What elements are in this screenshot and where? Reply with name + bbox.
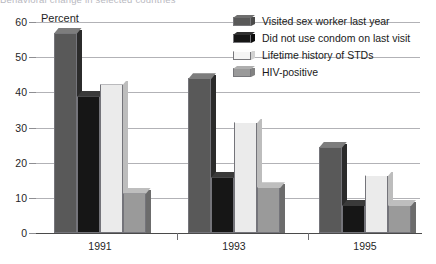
legend-item[interactable]: Visited sex worker last year: [233, 13, 433, 28]
legend-label: Lifetime history of STDs: [262, 49, 373, 61]
bar-front-face: [365, 175, 388, 233]
bar-front-face: [319, 147, 342, 233]
y-tick-mark: [29, 57, 36, 58]
bar-front-face: [211, 177, 234, 233]
bar: [123, 188, 146, 233]
x-axis-line: [30, 233, 422, 234]
legend-swatch-icon: [233, 32, 255, 43]
legend-item[interactable]: HIV-positive: [233, 64, 433, 79]
bar: [234, 117, 257, 233]
legend-item[interactable]: Did not use condom on last visit: [233, 30, 433, 45]
chart-legend: Visited sex worker last yearDid not use …: [233, 13, 433, 81]
bar-side-face: [146, 190, 151, 233]
y-tick-mark: [29, 233, 36, 234]
legend-swatch-icon: [233, 15, 255, 26]
bar: [211, 172, 234, 233]
y-tick-mark: [29, 163, 36, 164]
y-tick-label: 60: [15, 16, 27, 28]
bar-front-face: [123, 193, 146, 233]
bar-front-face: [100, 84, 123, 233]
bar: [257, 182, 280, 233]
bar-chart: Percent 0102030405060 199119931995 Visit…: [0, 0, 436, 264]
bar-front-face: [188, 78, 211, 233]
bar: [100, 79, 123, 233]
bar-front-face: [234, 122, 257, 233]
bar: [342, 200, 365, 233]
y-tick-label: 50: [15, 51, 27, 63]
bar: [77, 91, 100, 233]
bar: [388, 200, 411, 233]
bar-front-face: [257, 187, 280, 233]
y-tick-mark: [29, 92, 36, 93]
x-axis-tick: [177, 233, 178, 240]
bar: [365, 170, 388, 233]
legend-swatch-icon: [233, 66, 255, 77]
y-tick-mark: [29, 128, 36, 129]
y-tick-label: 10: [15, 192, 27, 204]
bar: [188, 73, 211, 233]
bar-side-face: [411, 202, 416, 233]
legend-label: Visited sex worker last year: [262, 15, 390, 27]
legend-label: HIV-positive: [262, 66, 318, 78]
x-axis-group-label: 1991: [88, 240, 111, 252]
bar-front-face: [77, 96, 100, 233]
bar-front-face: [342, 205, 365, 233]
legend-swatch-icon: [233, 49, 255, 60]
y-tick-mark: [29, 22, 36, 23]
legend-item[interactable]: Lifetime history of STDs: [233, 47, 433, 62]
y-tick-label: 40: [15, 86, 27, 98]
y-tick-label: 0: [21, 227, 27, 239]
y-tick-mark: [29, 198, 36, 199]
y-tick-label: 20: [15, 157, 27, 169]
bar: [319, 142, 342, 233]
bar-side-face: [280, 184, 285, 233]
x-axis-group-label: 1993: [222, 240, 245, 252]
x-axis-tick: [308, 233, 309, 240]
bar: [54, 28, 77, 233]
y-tick-label: 30: [15, 122, 27, 134]
bar-front-face: [388, 205, 411, 233]
x-axis-group-label: 1995: [353, 240, 376, 252]
legend-label: Did not use condom on last visit: [262, 32, 410, 44]
bar-front-face: [54, 33, 77, 233]
